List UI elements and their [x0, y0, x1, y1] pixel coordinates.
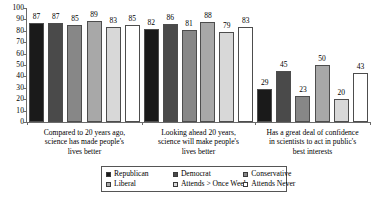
bar-value-label: 20 [338, 89, 346, 97]
chart-legend: RepublicanDemocratConservative LiberalAt… [101, 166, 287, 192]
bar-slot: 89 [84, 8, 103, 122]
y-axis-tick-label: 10 [0, 107, 24, 115]
bar-group: 878785898385 [27, 8, 142, 122]
y-axis-tick-label: 60 [0, 50, 24, 58]
bar[interactable]: 85 [125, 25, 140, 122]
bar-value-label: 45 [280, 61, 288, 69]
bar-value-label: 87 [52, 13, 60, 21]
y-axis-tick-label: 50 [0, 61, 24, 69]
bar-slot: 29 [255, 8, 274, 122]
legend-swatch-icon [243, 182, 248, 187]
y-axis-tick-label: 90 [0, 16, 24, 24]
bar-slot: 23 [293, 8, 312, 122]
bar-value-label: 43 [357, 63, 365, 71]
bar[interactable]: 82 [144, 29, 159, 122]
bar-slot: 81 [180, 8, 199, 122]
legend-label: Attends Never [251, 180, 295, 188]
y-axis-tick-labels: 0102030405060708090100 [0, 8, 24, 122]
bar[interactable]: 81 [182, 30, 197, 122]
category-label-line: Has a great deal of confidence [257, 128, 368, 137]
legend-row-1: RepublicanDemocratConservative [106, 169, 282, 179]
bar-slot: 82 [142, 8, 161, 122]
y-axis-tick [23, 88, 26, 89]
x-axis-line [26, 122, 370, 123]
bar-value-label: 86 [166, 14, 174, 22]
bar-value-label: 50 [318, 55, 326, 63]
plot-area: 0102030405060708090100 87878589838582868… [0, 0, 381, 135]
bar[interactable]: 45 [276, 71, 291, 122]
legend-swatch-icon [173, 172, 178, 177]
bar[interactable]: 43 [353, 73, 368, 122]
category-label: Has a great deal of confidencein scienti… [255, 128, 370, 156]
x-axis-group-tick [255, 122, 256, 125]
category-label-line: Looking ahead 20 years, [144, 128, 253, 137]
legend-item[interactable]: Attends Never [243, 180, 282, 188]
category-label-line: in scientists to act in public's [257, 137, 368, 146]
category-label-line: lives better [29, 147, 140, 156]
bar-value-label: 88 [204, 12, 212, 20]
bar-slot: 87 [46, 8, 65, 122]
bar-slot: 86 [161, 8, 180, 122]
bar[interactable]: 83 [106, 27, 121, 122]
bar-slot: 87 [27, 8, 46, 122]
y-axis-tick-label: 40 [0, 73, 24, 81]
x-axis-group-tick [27, 122, 28, 125]
bar-groups: 878785898385828681887983294523502043 [27, 8, 370, 122]
bar-value-label: 83 [109, 17, 117, 25]
y-axis-tick-label: 70 [0, 38, 24, 46]
category-label-line: Compared to 20 years ago, [29, 128, 140, 137]
bar-group: 828681887983 [142, 8, 255, 122]
legend-swatch-icon [243, 172, 248, 177]
legend-item[interactable]: Liberal [106, 180, 173, 188]
legend-label: Conservative [251, 170, 291, 178]
bar-slot: 20 [332, 8, 351, 122]
legend-label: Attends > Once Week [181, 180, 248, 188]
x-axis-category-labels: Compared to 20 years ago,science has mad… [27, 128, 370, 156]
bar-slot: 43 [351, 8, 370, 122]
bar-value-label: 29 [261, 79, 269, 87]
legend-label: Democrat [181, 170, 211, 178]
y-axis-tick-label: 100 [0, 4, 24, 12]
bar[interactable]: 87 [29, 23, 44, 122]
y-axis-tick-label: 80 [0, 27, 24, 35]
bar-slot: 83 [104, 8, 123, 122]
category-label: Looking ahead 20 years,science will make… [142, 128, 255, 156]
bar-value-label: 81 [185, 20, 193, 28]
bar-value-label: 23 [299, 86, 307, 94]
category-label-line: science has made people's [29, 137, 140, 146]
bar-group: 294523502043 [255, 8, 370, 122]
bar[interactable]: 23 [295, 96, 310, 122]
legend-item[interactable]: Republican [106, 170, 173, 178]
legend-item[interactable]: Democrat [173, 170, 243, 178]
bar-value-label: 83 [242, 17, 250, 25]
legend-swatch-icon [173, 182, 178, 187]
bar-slot: 79 [217, 8, 236, 122]
bar[interactable]: 29 [257, 89, 272, 122]
bar[interactable]: 89 [87, 21, 102, 122]
y-axis-tick [23, 54, 26, 55]
bar[interactable]: 85 [67, 25, 82, 122]
legend-swatch-icon [106, 182, 111, 187]
bar[interactable]: 83 [238, 27, 253, 122]
y-axis-tick [23, 99, 26, 100]
category-label-line: best interests [257, 147, 368, 156]
bar[interactable]: 86 [163, 24, 178, 122]
legend-item[interactable]: Attends > Once Week [173, 180, 243, 188]
bar[interactable]: 88 [200, 22, 215, 122]
bar[interactable]: 87 [48, 23, 63, 122]
legend-label: Republican [114, 170, 149, 178]
bar[interactable]: 79 [219, 32, 234, 122]
bar[interactable]: 50 [315, 65, 330, 122]
bar-value-label: 85 [129, 15, 137, 23]
y-axis-tick-label: 0 [0, 118, 24, 126]
y-axis-tick [23, 31, 26, 32]
x-axis-group-tick [142, 122, 143, 125]
legend-item[interactable]: Conservative [243, 170, 282, 178]
bar-value-label: 82 [148, 19, 156, 27]
bar-slot: 45 [274, 8, 293, 122]
y-axis-tick-label: 20 [0, 95, 24, 103]
bar[interactable]: 20 [334, 99, 349, 122]
y-axis-tick [23, 111, 26, 112]
category-label: Compared to 20 years ago,science has mad… [27, 128, 142, 156]
legend-row-2: LiberalAttends > Once WeekAttends Never [106, 179, 282, 189]
